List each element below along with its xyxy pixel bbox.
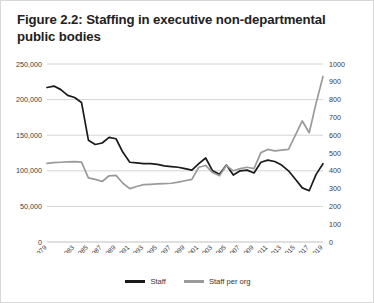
legend-staff-per-org[interactable]: Staff per org xyxy=(184,277,251,286)
x-axis-tick-label: 2001 xyxy=(184,244,200,253)
left-axis-tick-labels: 050,000100,000150,000200,000250,000 xyxy=(16,60,42,247)
line-chart: 050,000100,000150,000200,000250,000 0100… xyxy=(1,53,374,253)
chart-plot-area: 050,000100,000150,000200,000250,000 0100… xyxy=(1,53,374,253)
legend-swatch-icon xyxy=(184,280,204,283)
x-axis-tick-labels: 1979198319851987198919911993199519971999… xyxy=(32,244,324,253)
x-axis-tick-label: 1985 xyxy=(74,244,90,253)
x-axis-tick-label: 2007 xyxy=(226,244,242,253)
right-axis-tick-labels: 01002003004005006007008009001000 xyxy=(329,60,345,247)
right-axis-tick-label: 400 xyxy=(329,166,341,175)
data-series xyxy=(47,76,323,190)
x-axis-tick-label: 2017 xyxy=(295,244,311,253)
left-axis-tick-label: 250,000 xyxy=(16,60,42,69)
gridlines xyxy=(47,64,323,242)
series-line-staff-per-org xyxy=(47,76,323,188)
x-axis-tick-label: 1989 xyxy=(101,244,117,253)
right-axis-tick-label: 800 xyxy=(329,95,341,104)
legend-label: Staff xyxy=(150,277,165,286)
series-line-staff xyxy=(47,86,323,191)
x-axis-tick-label: 1991 xyxy=(115,244,131,253)
x-axis-tick-label: 1993 xyxy=(129,244,145,253)
left-axis-tick-label: 100,000 xyxy=(16,166,42,175)
right-axis-tick-label: 200 xyxy=(329,202,341,211)
right-axis-tick-label: 600 xyxy=(329,131,341,140)
x-axis-tick-label: 2011 xyxy=(254,244,269,253)
x-axis-tick-label: 1995 xyxy=(143,244,159,253)
chart-legend: StaffStaff per org xyxy=(1,277,374,286)
right-axis-tick-label: 900 xyxy=(329,77,341,86)
left-axis-tick-label: 150,000 xyxy=(16,131,42,140)
figure-card: Figure 2.2: Staffing in executive non-de… xyxy=(0,0,374,303)
x-axis-tick-label: 1997 xyxy=(157,244,173,253)
figure-title: Figure 2.2: Staffing in executive non-de… xyxy=(17,11,357,45)
right-axis-tick-label: 300 xyxy=(329,184,341,193)
right-axis-tick-label: 700 xyxy=(329,113,341,122)
x-axis-tick-label: 2013 xyxy=(267,244,283,253)
legend-swatch-icon xyxy=(125,280,145,283)
right-axis-tick-label: 100 xyxy=(329,220,341,229)
x-axis-tick-label: 2009 xyxy=(239,244,255,253)
x-axis-tick-label: 1999 xyxy=(170,244,186,253)
legend-staff[interactable]: Staff xyxy=(125,277,165,286)
legend-label: Staff per org xyxy=(209,277,251,286)
x-axis-tick-label: 1983 xyxy=(60,244,76,253)
x-axis-tick-label: 2015 xyxy=(281,244,297,253)
left-axis-tick-label: 200,000 xyxy=(16,95,42,104)
x-axis-tick-label: 2019 xyxy=(308,244,324,253)
right-axis-tick-label: 500 xyxy=(329,149,341,158)
right-axis-tick-label: 0 xyxy=(329,238,333,247)
x-axis-tick-label: 2005 xyxy=(212,244,228,253)
x-axis-tick-label: 1987 xyxy=(88,244,104,253)
right-axis-tick-label: 1000 xyxy=(329,60,345,69)
x-axis-tick-label: 2003 xyxy=(198,244,214,253)
left-axis-tick-label: 50,000 xyxy=(20,202,42,211)
